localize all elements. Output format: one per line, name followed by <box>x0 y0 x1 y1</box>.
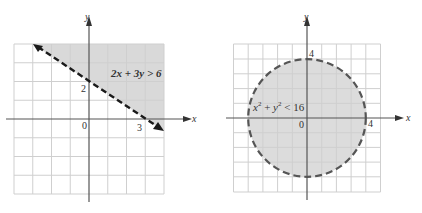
origin-label: 0 <box>82 120 87 131</box>
inequality-label: 2x + 3y > 6 <box>110 67 162 79</box>
y-tick-label: 4 <box>309 48 314 59</box>
y-axis-label: y <box>84 11 90 22</box>
x-tick-label: 4 <box>368 118 373 129</box>
linear-inequality-plot: y x 0 3 2 2x + 3y > 6 <box>0 0 211 213</box>
x-axis-arrow-icon <box>183 116 192 122</box>
x-axis-label: x <box>405 112 411 123</box>
origin-label: 0 <box>299 119 304 130</box>
x-tick-label: 3 <box>137 122 142 133</box>
inequality-rest: < 16 <box>282 101 305 113</box>
x-axis-arrow-icon <box>395 115 404 121</box>
linear-inequality-graph: y x 0 3 2 2x + 3y > 6 <box>0 0 211 213</box>
circle-inequality-graph: y x 0 4 4 x2 + y2 < 16 <box>211 0 422 213</box>
y-tick-label: 2 <box>81 83 86 94</box>
x-axis-label: x <box>191 113 197 124</box>
inequality-plus: + <box>261 101 273 113</box>
circle-inequality-plot: y x 0 4 4 x2 + y2 < 16 <box>211 0 422 213</box>
y-axis-label: y <box>303 11 309 22</box>
